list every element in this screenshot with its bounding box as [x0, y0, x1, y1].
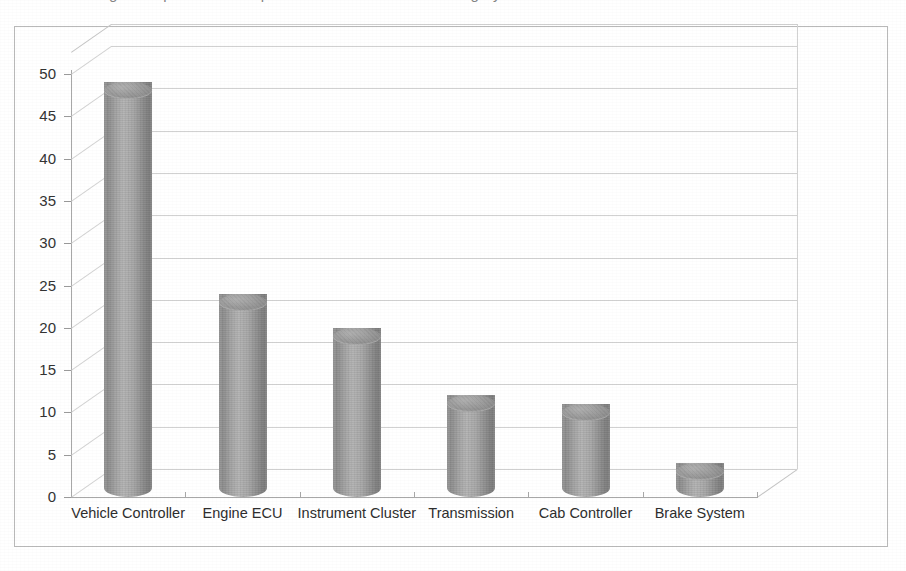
y-axis-tick: [64, 116, 71, 117]
y-axis-tick: [64, 497, 71, 498]
y-axis-tick: [64, 201, 71, 202]
top-text-bleed: Figure: reported issues per electronic c…: [0, 0, 906, 9]
back-wall-top-edge: [111, 24, 797, 25]
y-axis-tick: [64, 328, 71, 329]
y-axis-tick-label: 45: [22, 108, 56, 123]
x-axis-category-label: Instrument Cluster: [298, 505, 416, 521]
x-axis-tick: [643, 492, 644, 498]
bar-cylinder: [219, 294, 267, 497]
bar-cylinder: [333, 328, 381, 497]
gridline: [111, 300, 797, 301]
x-axis-tick: [300, 492, 301, 498]
y-axis-tick-label: 0: [22, 489, 56, 504]
y-axis-tick: [64, 370, 71, 371]
gridline: [111, 258, 797, 259]
gridline: [111, 215, 797, 216]
bar-cylinder: [562, 404, 610, 497]
bar-cylinder: [447, 395, 495, 497]
bar-body: [333, 328, 381, 497]
y-axis-tick-label: 5: [22, 447, 56, 462]
bar-top-ellipse: [333, 328, 381, 345]
x-axis-tick: [414, 492, 415, 498]
bar-cylinder: [676, 463, 724, 497]
gridline: [111, 88, 797, 89]
y-axis-tick: [64, 412, 71, 413]
y-axis-tick-label: 15: [22, 362, 56, 377]
x-axis-category-label: Vehicle Controller: [71, 505, 185, 521]
gridline-depth-edge: [71, 46, 112, 75]
y-axis-tick: [64, 74, 71, 75]
gridline: [111, 131, 797, 132]
x-axis-tick: [757, 492, 758, 498]
bar-top-ellipse: [676, 463, 724, 480]
y-axis-tick-label: 40: [22, 151, 56, 166]
y-axis-tick-label: 50: [22, 66, 56, 81]
bar-body: [219, 294, 267, 497]
x-axis-category-label: Cab Controller: [539, 505, 633, 521]
back-wall-right-edge: [797, 24, 798, 469]
gridline: [111, 46, 797, 47]
x-axis-category-label: Transmission: [428, 505, 514, 521]
y-axis-tick-label: 35: [22, 193, 56, 208]
bar-cylinder: [104, 82, 152, 497]
bleed-text: Figure: reported issues per electronic c…: [96, 0, 501, 2]
gridline: [111, 173, 797, 174]
x-axis-tick: [528, 492, 529, 498]
y-axis-tick-label: 10: [22, 404, 56, 419]
x-axis-tick: [185, 492, 186, 498]
y-axis-tick-label: 30: [22, 235, 56, 250]
bar-body: [104, 82, 152, 497]
bar-top-ellipse: [562, 404, 610, 421]
x-axis-category-label: Brake System: [655, 505, 745, 521]
bar-top-ellipse: [219, 294, 267, 311]
gridline: [111, 384, 797, 385]
x-axis-category-label: Engine ECU: [203, 505, 283, 521]
floor-right-edge: [757, 469, 798, 498]
y-axis-tick-label: 20: [22, 320, 56, 335]
gridline: [111, 342, 797, 343]
y-axis-tick-label: 25: [22, 278, 56, 293]
chart-plot-area: 05101520253035404550 Vehicle ControllerE…: [0, 0, 906, 571]
y-axis-tick: [64, 243, 71, 244]
